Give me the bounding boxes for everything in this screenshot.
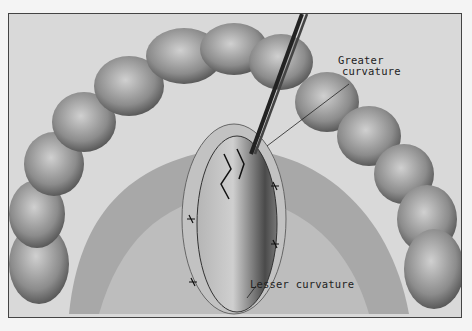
- greater-curvature-label-line2: curvature: [338, 66, 401, 77]
- lesser-curvature-label: Lesser curvature: [250, 279, 354, 290]
- greater-curvature-label: Greater curvature: [338, 55, 401, 77]
